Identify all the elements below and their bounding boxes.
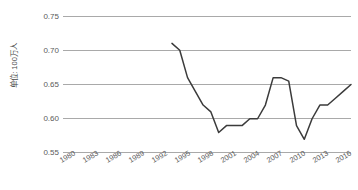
x-tick-label: 1980 <box>58 149 77 165</box>
series-layer <box>63 16 351 153</box>
y-tick-label: 0.70 <box>19 46 59 55</box>
y-axis-title: 单位: 100万人 <box>8 21 19 111</box>
plot-area <box>63 16 351 153</box>
y-tick-label: 0.60 <box>19 114 59 123</box>
y-tick-label: 0.75 <box>19 12 59 21</box>
series-line <box>172 43 351 139</box>
y-tick-label: 0.55 <box>19 148 59 157</box>
line-chart: 单位: 100万人 0.75 0.70 0.65 0.60 0.55 1980 … <box>0 0 358 190</box>
y-tick-label: 0.65 <box>19 80 59 89</box>
